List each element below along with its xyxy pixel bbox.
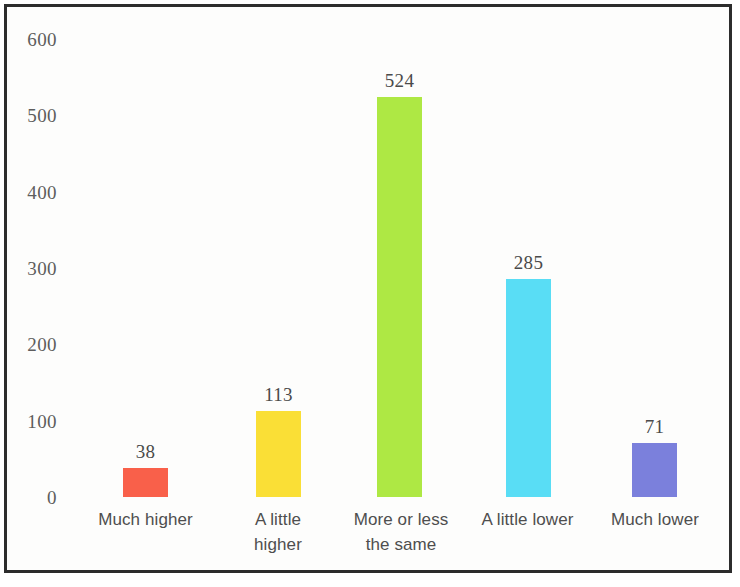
y-tick-100: 100 — [0, 412, 57, 431]
bar-fill-much-higher — [123, 468, 168, 497]
bar-value-more-or-less-the-same: 524 — [385, 70, 414, 92]
chart-frame: 600 500 400 300 200 100 0 38 113 524 — [4, 4, 732, 573]
y-tick-400: 400 — [0, 183, 57, 202]
bar-fill-more-or-less-the-same — [377, 97, 422, 497]
bar-value-much-lower: 71 — [645, 416, 665, 438]
bar-value-much-higher: 38 — [136, 441, 156, 463]
x-label-more-or-less-the-same: More or less the same — [334, 507, 468, 557]
bar-value-a-little-higher: 113 — [264, 384, 293, 406]
y-tick-0: 0 — [0, 488, 57, 507]
y-tick-300: 300 — [0, 259, 57, 278]
x-label-a-little-higher: A little higher — [211, 507, 345, 557]
bar-a-little-higher[interactable]: 113 — [256, 411, 301, 497]
x-label-a-little-lower: A little lower — [459, 507, 596, 532]
bar-value-a-little-lower: 285 — [514, 252, 543, 274]
x-label-much-higher: Much higher — [69, 507, 222, 532]
bar-much-higher[interactable]: 38 — [123, 468, 168, 497]
x-label-much-lower: Much lower — [590, 507, 720, 532]
y-tick-200: 200 — [0, 335, 57, 354]
bar-more-or-less-the-same[interactable]: 524 — [377, 97, 422, 497]
bar-a-little-lower[interactable]: 285 — [506, 279, 551, 497]
y-tick-500: 500 — [0, 106, 57, 125]
y-tick-600: 600 — [0, 30, 57, 49]
plot-area: 600 500 400 300 200 100 0 38 113 524 — [7, 7, 735, 576]
bar-fill-a-little-higher — [256, 411, 301, 497]
bar-fill-much-lower — [632, 443, 677, 497]
bar-fill-a-little-lower — [506, 279, 551, 497]
scan-edge — [0, 578, 740, 587]
bar-much-lower[interactable]: 71 — [632, 443, 677, 497]
chart-page: 600 500 400 300 200 100 0 38 113 524 — [0, 0, 740, 587]
